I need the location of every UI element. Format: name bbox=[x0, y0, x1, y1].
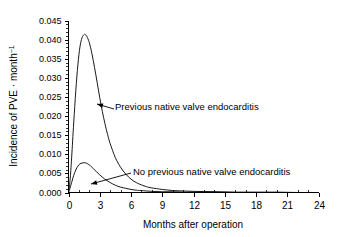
x-tick-label-7: 21 bbox=[282, 200, 294, 211]
y-axis-title-main: Incidence of PVE · month bbox=[8, 53, 19, 166]
incidence-line-chart: 0.0000.0050.0100.0150.0200.0250.0300.035… bbox=[0, 0, 344, 237]
y-tick-label-1: 0.005 bbox=[39, 168, 62, 178]
annotation-label-0: Previous native valve endocarditis bbox=[115, 101, 259, 112]
chart-figure: 0.0000.0050.0100.0150.0200.0250.0300.035… bbox=[0, 0, 344, 237]
y-tick-label-7: 0.035 bbox=[39, 54, 62, 64]
y-tick-label-8: 0.040 bbox=[39, 35, 62, 45]
y-tick-label-0: 0.000 bbox=[39, 188, 62, 198]
annotation-label-1: No previous native valve endocarditis bbox=[133, 166, 291, 177]
x-axis-title: Months after operation bbox=[143, 219, 243, 230]
x-tick-label-4: 12 bbox=[189, 200, 201, 211]
x-tick-label-6: 18 bbox=[251, 200, 263, 211]
y-axis-title-exponent: −1 bbox=[8, 45, 15, 53]
y-axis-title-group: Incidence of PVE · month−1 bbox=[8, 45, 19, 166]
x-tick-label-8: 24 bbox=[314, 200, 326, 211]
y-tick-label-3: 0.015 bbox=[39, 130, 62, 140]
x-tick-label-1: 3 bbox=[98, 200, 104, 211]
y-tick-label-9: 0.045 bbox=[39, 16, 62, 26]
x-tick-label-5: 15 bbox=[220, 200, 232, 211]
x-tick-label-2: 6 bbox=[129, 200, 135, 211]
y-axis-title: Incidence of PVE · month−1 bbox=[8, 45, 19, 166]
y-tick-label-6: 0.030 bbox=[39, 73, 62, 83]
y-tick-label-2: 0.010 bbox=[39, 149, 62, 159]
x-tick-label-3: 9 bbox=[160, 200, 166, 211]
annotation-0: Previous native valve endocarditis bbox=[97, 101, 259, 112]
y-tick-label-4: 0.020 bbox=[39, 111, 62, 121]
y-tick-label-5: 0.025 bbox=[39, 92, 62, 102]
x-tick-label-0: 0 bbox=[67, 200, 73, 211]
